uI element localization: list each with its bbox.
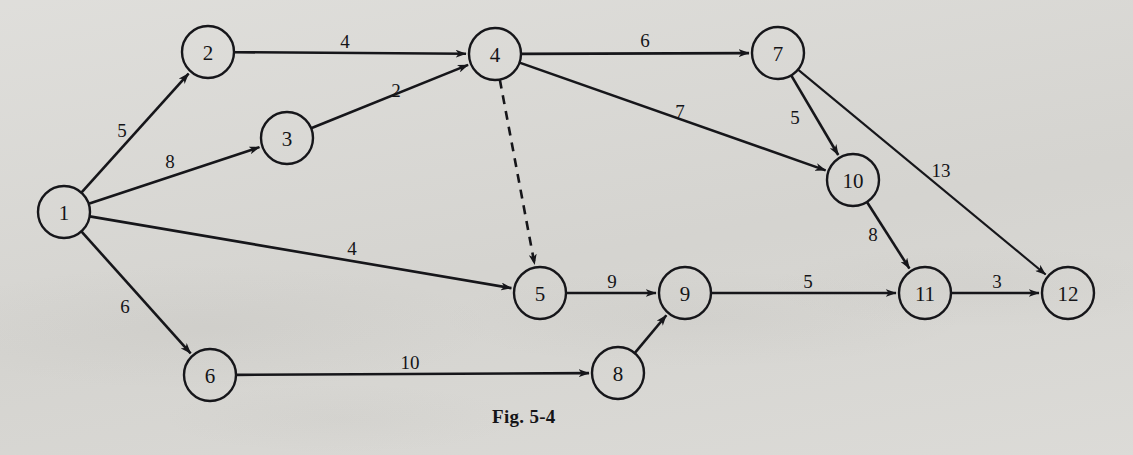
- edge-weight-6-8: 10: [401, 352, 420, 373]
- graph-node-11[interactable]: 11: [899, 267, 951, 319]
- edge-7-to-12: [798, 70, 1046, 275]
- edge-4-to-5: [500, 80, 535, 265]
- edge-weight-4-10: 7: [675, 101, 685, 122]
- node-label-8: 8: [613, 362, 624, 386]
- node-label-11: 11: [915, 282, 935, 306]
- node-label-2: 2: [203, 41, 214, 65]
- node-label-9: 9: [680, 282, 691, 306]
- edge-weight-1-6: 6: [120, 296, 130, 317]
- edge-1-to-5: [90, 216, 512, 288]
- node-label-12: 12: [1058, 282, 1079, 306]
- nodes-layer: 123456789101112: [38, 26, 1094, 401]
- edge-weight-10-11: 8: [868, 224, 878, 245]
- edge-4-to-7: [521, 53, 749, 54]
- edge-weight-7-12: 13: [932, 160, 951, 181]
- graph-node-6[interactable]: 6: [184, 349, 236, 401]
- graph-node-10[interactable]: 10: [827, 154, 879, 206]
- graph-node-5[interactable]: 5: [514, 267, 566, 319]
- edge-weight-4-7: 6: [640, 30, 650, 51]
- edge-weight-1-2: 5: [117, 120, 127, 141]
- node-label-3: 3: [282, 127, 293, 151]
- edge-3-to-4: [311, 65, 468, 128]
- graph-node-4[interactable]: 4: [469, 28, 521, 80]
- edges-layer: [81, 52, 1045, 375]
- node-label-1: 1: [59, 201, 70, 225]
- figure-container: 58464267910513583 123456789101112 Fig. 5…: [0, 0, 1133, 455]
- edge-8-to-9: [635, 315, 667, 353]
- graph-node-7[interactable]: 7: [752, 27, 804, 79]
- edge-weight-1-5: 4: [347, 238, 357, 259]
- edge-2-to-4: [234, 52, 466, 54]
- edge-weight-7-10: 5: [790, 107, 800, 128]
- graph-node-12[interactable]: 12: [1042, 267, 1094, 319]
- figure-caption: Fig. 5-4: [492, 406, 556, 428]
- edge-weight-1-3: 8: [165, 151, 175, 172]
- graph-node-3[interactable]: 3: [261, 112, 313, 164]
- node-label-5: 5: [535, 282, 546, 306]
- node-label-10: 10: [843, 169, 864, 193]
- edge-weight-5-9: 9: [607, 271, 617, 292]
- edge-weight-3-4: 2: [391, 80, 401, 101]
- edge-weight-9-11: 5: [803, 271, 813, 292]
- graph-node-2[interactable]: 2: [182, 26, 234, 78]
- edge-1-to-6: [81, 231, 190, 353]
- graph-node-9[interactable]: 9: [659, 267, 711, 319]
- graph-canvas: 58464267910513583 123456789101112: [0, 0, 1133, 455]
- edge-weight-2-4: 4: [340, 31, 350, 52]
- node-label-4: 4: [490, 43, 501, 67]
- graph-node-8[interactable]: 8: [592, 347, 644, 399]
- node-label-7: 7: [773, 42, 784, 66]
- edge-weight-11-12: 3: [992, 271, 1002, 292]
- edge-6-to-8: [236, 373, 589, 375]
- node-label-6: 6: [205, 364, 216, 388]
- graph-node-1[interactable]: 1: [38, 186, 90, 238]
